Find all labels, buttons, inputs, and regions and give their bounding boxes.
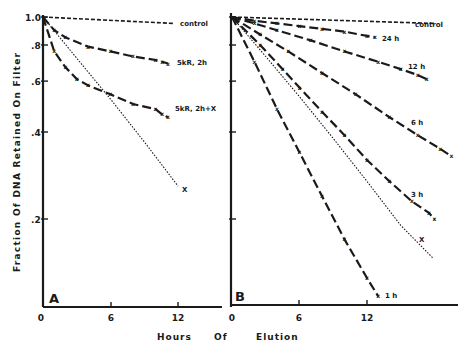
x-axis-title-of: Of: [214, 332, 228, 342]
data-point-marker: x: [258, 30, 262, 37]
data-point-marker: x: [52, 47, 56, 54]
data-point-marker: x: [154, 105, 158, 112]
data-point-marker: x: [416, 71, 420, 78]
data-point-marker: x: [166, 60, 170, 67]
data-point-marker: x: [388, 177, 392, 184]
data-point-marker: x: [343, 28, 347, 35]
xtick-b-0: 0: [229, 313, 235, 323]
data-point-marker: x: [320, 69, 324, 76]
data-point-marker: x: [154, 56, 158, 63]
data-point-marker: x: [64, 33, 68, 40]
data-point-marker: x: [131, 52, 135, 59]
b-label-24h: 24 h: [382, 35, 399, 43]
ytick-label-0-2: .2: [31, 215, 41, 225]
data-point-marker: x: [298, 22, 302, 29]
b-label-12h: 12 h: [408, 63, 425, 71]
data-point-marker: x: [449, 152, 453, 159]
xtick-a-6: 6: [108, 313, 114, 323]
data-point-marker: x: [275, 26, 279, 33]
data-point-marker: x: [376, 292, 380, 299]
a-label-5kr-2h-x: 5kR, 2h+X: [175, 105, 217, 113]
series-line-b-x: [232, 17, 433, 259]
data-point-marker: x: [320, 108, 324, 115]
series-line-a-control: [43, 17, 174, 23]
data-point-marker: x: [160, 58, 164, 65]
data-point-marker: x: [253, 58, 257, 65]
dna-elution-chart: xxxxxxxxxxxxxxxxxxxxxxxxxxxxxxxxxxxxxxxx…: [0, 0, 472, 347]
ytick-label-0-6: .6: [31, 77, 41, 87]
series-line-a-5kr-2h: [43, 17, 168, 64]
data-point-marker: x: [275, 105, 279, 112]
series-line-b-12-h: [232, 17, 427, 79]
data-point-marker: x: [399, 65, 403, 72]
x-axis-title-hours: Hours: [157, 332, 192, 342]
xtick-b-6: 6: [296, 313, 302, 323]
data-point-marker: x: [298, 84, 302, 91]
b-label-6h: 6 h: [411, 119, 423, 127]
axes: [43, 13, 458, 307]
data-point-marker: x: [427, 209, 431, 216]
data-point-marker: x: [258, 41, 262, 48]
series-markers: xxxxxxxxxxxxxxxxxxxxxxxxxxxxxxxxxxxxxxxx…: [52, 17, 453, 300]
data-point-marker: x: [131, 100, 135, 107]
data-point-marker: x: [320, 192, 324, 199]
a-label-x: X: [182, 186, 188, 194]
series-lines: [43, 17, 451, 296]
series-line-a-x: [43, 17, 178, 186]
data-point-marker: x: [365, 274, 369, 281]
data-point-marker: x: [438, 145, 442, 152]
data-point-marker: x: [425, 75, 429, 82]
xtick-a-0: 0: [38, 313, 44, 323]
b-label-x: X: [419, 236, 425, 244]
data-point-marker: x: [320, 25, 324, 32]
data-point-marker: x: [109, 47, 113, 54]
data-point-marker: x: [354, 90, 358, 97]
data-point-marker: x: [388, 113, 392, 120]
a-label-5kr-2h: 5kR, 2h: [177, 59, 207, 67]
data-point-marker: x: [298, 148, 302, 155]
ytick-label-1-0: 1.0: [25, 13, 41, 23]
ytick-label-0-8: .8: [31, 41, 41, 51]
xtick-b-12: 12: [361, 313, 374, 323]
data-point-marker: x: [86, 43, 90, 50]
data-point-marker: x: [343, 235, 347, 242]
data-point-marker: x: [373, 33, 377, 40]
data-point-marker: x: [416, 131, 420, 138]
xtick-a-12: 12: [172, 313, 185, 323]
b-label-3h: 3 h: [411, 191, 423, 199]
a-label-control: control: [180, 20, 208, 28]
data-point-marker: x: [433, 215, 437, 222]
data-point-marker: x: [160, 110, 164, 117]
data-point-marker: x: [343, 131, 347, 138]
panel-b-label: B: [235, 289, 245, 304]
data-point-marker: x: [86, 81, 90, 88]
data-point-marker: x: [166, 113, 170, 120]
data-point-marker: x: [365, 32, 369, 39]
data-point-marker: x: [365, 156, 369, 163]
data-point-marker: x: [109, 90, 113, 97]
data-point-marker: x: [75, 75, 79, 82]
series-line-a-5kr-2h-x: [43, 17, 168, 117]
data-point-marker: x: [343, 47, 347, 54]
data-point-marker: x: [286, 47, 290, 54]
y-axis-title: Fraction Of DNA Retained On Filter: [12, 52, 22, 272]
data-point-marker: x: [281, 65, 285, 72]
x-axis-title-elution: Elution: [256, 332, 299, 342]
b-label-control: control: [415, 21, 443, 29]
data-point-marker: x: [253, 19, 257, 26]
ytick-label-0-4: .4: [31, 128, 41, 138]
data-point-marker: x: [64, 63, 68, 70]
data-point-marker: x: [52, 26, 56, 33]
data-point-marker: x: [376, 58, 380, 65]
data-point-marker: x: [309, 36, 313, 43]
b-label-1h: 1 h: [385, 292, 397, 300]
panel-a-label: A: [49, 291, 59, 306]
